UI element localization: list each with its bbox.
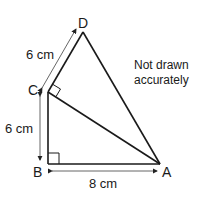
note-line-1: Not drawn <box>134 58 189 72</box>
dimension-label-bc: 6 cm <box>5 121 33 136</box>
point-label-b: B <box>33 164 42 180</box>
note-line-2: accurately <box>134 73 189 87</box>
dimension-label-ba: 8 cm <box>89 176 117 191</box>
point-label-c: C <box>28 82 38 98</box>
point-label-d: D <box>78 15 88 31</box>
side-cd <box>48 32 83 92</box>
right-angle-marker-b <box>48 153 59 164</box>
triangle-diagram: D C B A 6 cm 6 cm 8 cm Not drawn accurat… <box>0 0 199 206</box>
dimension-label-cd: 6 cm <box>26 47 54 62</box>
side-ca <box>48 92 160 164</box>
side-da <box>83 32 160 164</box>
point-label-a: A <box>162 164 172 180</box>
